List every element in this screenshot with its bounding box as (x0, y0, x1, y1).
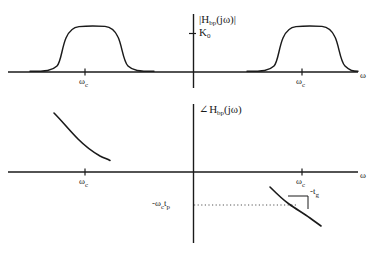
group-delay-slope-marker (288, 196, 308, 209)
phase-panel (8, 104, 358, 243)
figure-canvas (0, 0, 374, 253)
omega-subscript-left: c (85, 81, 88, 89)
magnitude-label-arg: (jω) (216, 13, 234, 25)
phase-label-h: H (209, 103, 217, 115)
group-delay-label: -tg (310, 187, 319, 196)
phase-xtick-label-left: ωc (79, 177, 88, 186)
phase-label-subscript: bp (217, 109, 224, 117)
magnitude-label-h: H (201, 13, 209, 25)
angle-icon: ∠ (199, 103, 208, 115)
magnitude-curve-negative-band (30, 26, 154, 71)
magnitude-axis-label: |Hbp(jω)| (199, 14, 236, 25)
omega-subscript-right: c (302, 81, 305, 89)
magnitude-xtick-label-right: ωc (296, 77, 305, 86)
phase-ytick-label: -ωctp (152, 199, 170, 208)
magnitude-label-bar-close: | (234, 13, 236, 25)
neg-omega-subscript: c (161, 203, 164, 211)
neg-omega-symbol: -ω (152, 198, 161, 208)
k0-symbol: K (199, 26, 207, 38)
phase-axis-label: ∠ Hbp(jω) (199, 104, 242, 115)
magnitude-panel (8, 14, 358, 88)
bandpass-filter-response-figure: |Hbp(jω)| K0 ωc ωc ω ∠ Hbp(jω) ωc ωc ω -… (0, 0, 374, 253)
magnitude-label-subscript: bp (209, 19, 216, 27)
phase-xtick-label-right: ωc (296, 177, 305, 186)
neg-tg-subscript: g (316, 191, 320, 199)
phase-curve-negative-band (54, 113, 110, 161)
phase-omega-subscript-right: c (302, 181, 305, 189)
phase-label-arg: (jω) (224, 103, 242, 115)
magnitude-xaxis-label: ω (360, 71, 366, 80)
phase-omega-subscript-left: c (85, 181, 88, 189)
phase-xaxis-label: ω (360, 171, 366, 180)
tp-subscript: p (167, 203, 171, 211)
k0-subscript: 0 (207, 32, 211, 40)
magnitude-curve-positive-band (247, 26, 358, 71)
neg-tg-symbol: -t (310, 186, 316, 196)
magnitude-xtick-label-left: ωc (79, 77, 88, 86)
magnitude-k0-label: K0 (199, 27, 210, 38)
